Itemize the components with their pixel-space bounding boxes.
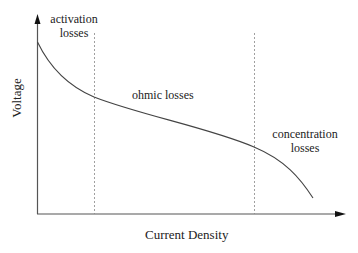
label-activation-losses: activation losses (44, 12, 104, 40)
x-axis-arrow-icon (335, 211, 346, 217)
label-line: losses (44, 26, 104, 40)
y-axis-label: Voltage (9, 73, 25, 123)
label-line: activation (44, 12, 104, 26)
polarization-curve (38, 42, 314, 198)
label-ohmic-losses: ohmic losses (132, 88, 194, 102)
y-axis-arrow-icon (35, 14, 41, 24)
label-line: losses (265, 141, 345, 155)
x-axis-label: Current Density (145, 228, 228, 242)
label-line: concentration (265, 127, 345, 141)
label-line: ohmic losses (132, 88, 194, 102)
label-concentration-losses: concentration losses (265, 127, 345, 155)
